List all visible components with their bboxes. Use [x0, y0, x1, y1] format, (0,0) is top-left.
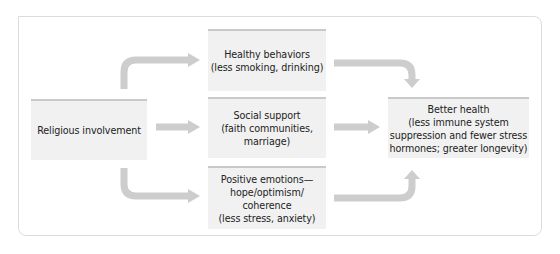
arrow-source-to-behaviors — [124, 60, 188, 89]
arrowhead-outcome-mid — [368, 120, 380, 134]
arrowhead-outcome-top — [404, 79, 420, 88]
arrow-source-to-emotions — [124, 168, 188, 196]
arrowhead-social — [188, 120, 200, 134]
arrowhead-outcome-bottom — [404, 170, 420, 179]
arrow-behaviors-to-outcome — [334, 63, 412, 79]
mediator-label: Positive emotions— hope/optimism/ cohere… — [218, 173, 315, 225]
mediator-box-positive-emotions: Positive emotions— hope/optimism/ cohere… — [208, 166, 326, 229]
arrowhead-behaviors — [188, 53, 200, 67]
arrowhead-emotions — [188, 189, 200, 203]
source-label: Religious involvement — [37, 124, 141, 137]
source-box-religious-involvement: Religious involvement — [31, 99, 147, 160]
mediator-box-social-support: Social support (faith communities, marri… — [208, 97, 326, 158]
outcome-box-better-health: Better health (less immune system suppre… — [388, 97, 529, 158]
mediator-label: Social support (faith communities, marri… — [221, 109, 313, 148]
mediator-box-healthy-behaviors: Healthy behaviors (less smoking, drinkin… — [208, 29, 326, 91]
outcome-label: Better health (less immune system suppre… — [390, 103, 528, 155]
arrow-emotions-to-outcome — [334, 179, 412, 198]
mediator-label: Healthy behaviors (less smoking, drinkin… — [211, 48, 324, 74]
